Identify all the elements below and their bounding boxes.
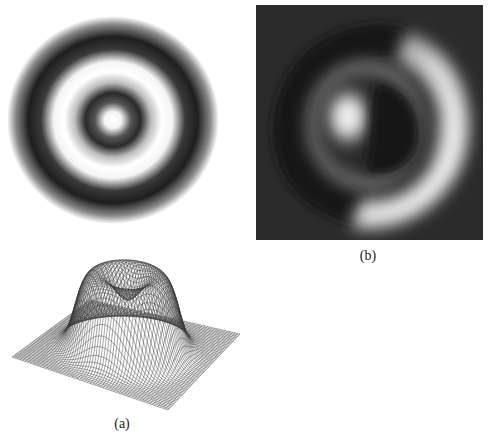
phase-image [256,5,483,240]
concentric-rings-image [8,12,240,226]
mesh-surface-plot [0,250,250,415]
caption-a: (a) [102,416,142,432]
caption-b: (b) [348,248,388,264]
